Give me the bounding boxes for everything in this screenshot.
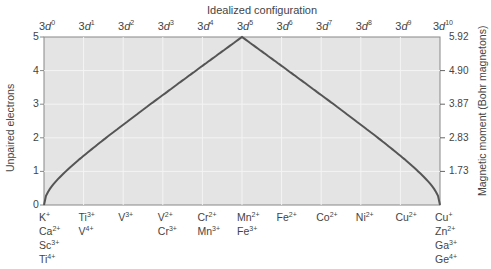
ion-label: V3+ [118,209,133,223]
ion-label: Zn2+ [435,223,457,237]
ion-label: Ga3+ [435,237,457,251]
ion-label: Ti3+ [79,209,95,223]
right-axis-tick-label: 2.83 [449,132,468,143]
left-axis-tick-label: 5 [33,30,39,42]
ion-label: Cr3+ [158,223,177,237]
ion-label-column: Ni2+ [356,209,374,223]
left-axis-tick-label: 4 [33,64,39,76]
right-axis-tick-label: 5.92 [449,31,468,42]
ion-label-column: Ti3+V4+ [79,209,95,237]
ion-label-column: Fe2+ [277,209,297,223]
right-axis-tick-label: 4.90 [449,65,468,76]
ion-label-column: Cr2+Mn3+ [197,209,220,237]
ion-label: Cr2+ [197,209,220,223]
ion-label-column: Co2+ [316,209,337,223]
ion-label: Cu+ [435,209,457,223]
ion-label: Fe3+ [237,223,260,237]
ion-label-column: V2+Cr3+ [158,209,177,237]
right-axis-label: Magnetic moment (Bohr magnetons) [476,26,488,196]
ion-label: Cu2+ [395,209,416,223]
ion-label-column: Mn2+Fe3+ [237,209,260,237]
ion-label: Ti4+ [39,251,60,265]
ion-label: Mn2+ [237,209,260,223]
ion-label-column: Cu+Zn2+Ga3+Ge4+ [435,209,457,265]
right-axis-tick-label: 1.73 [449,165,468,176]
ion-label: Ge4+ [435,251,457,265]
ion-label-column: V3+ [118,209,133,223]
ion-label-column: K+Ca2+Sc3+Ti4+ [39,209,60,265]
ion-label: Co2+ [316,209,337,223]
ion-label: Mn3+ [197,223,220,237]
ion-label-column: Cu2+ [395,209,416,223]
ion-label: V2+ [158,209,177,223]
ion-label: V4+ [79,223,95,237]
right-axis-tick-label: 3.87 [449,98,468,109]
ion-label: Ca2+ [39,223,60,237]
ion-label: Sc3+ [39,237,60,251]
left-axis-tick-label: 0 [33,198,39,210]
left-axis-tick-label: 1 [33,164,39,176]
left-axis-label: Unpaired electrons [4,84,16,172]
left-axis-tick-label: 2 [33,131,39,143]
left-axis-tick-label: 3 [33,97,39,109]
ion-label: Fe2+ [277,209,297,223]
right-axis-ticks [440,71,445,172]
ion-label: K+ [39,209,60,223]
ion-label: Ni2+ [356,209,374,223]
